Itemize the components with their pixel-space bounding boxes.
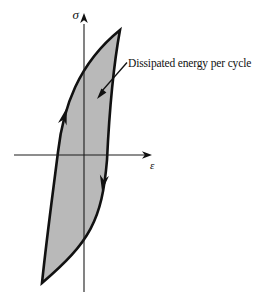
- hysteresis-plot: σ ε Dissipated energy per cycle: [0, 0, 268, 300]
- hysteresis-figure: σ ε Dissipated energy per cycle: [0, 0, 268, 300]
- hysteresis-loop: [42, 30, 120, 283]
- y-axis-label: σ: [73, 7, 80, 22]
- annotation-label: Dissipated energy per cycle: [128, 57, 251, 70]
- x-axis-label: ε: [150, 159, 155, 171]
- y-axis-arrowhead-icon: [80, 13, 88, 23]
